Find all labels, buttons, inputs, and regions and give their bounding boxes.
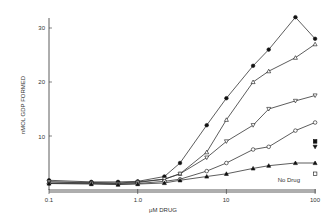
data-point xyxy=(205,123,209,127)
data-point xyxy=(293,56,297,60)
y-tick-20: 20 xyxy=(38,79,45,85)
chart: 0.1 1.0 10 100 10 20 30 µM DRUG nMOL GDP… xyxy=(0,0,336,221)
data-point xyxy=(251,148,255,152)
data-point xyxy=(313,172,317,176)
data-point xyxy=(205,156,209,160)
data-point xyxy=(251,124,255,128)
data-point xyxy=(178,161,182,165)
data-point xyxy=(313,42,317,46)
data-point xyxy=(294,129,298,133)
data-point xyxy=(294,15,298,19)
data-point xyxy=(225,161,229,165)
no-drug-label: No Drug xyxy=(278,177,300,183)
x-axis-label: µM DRUG xyxy=(149,207,177,213)
curve-3 xyxy=(49,123,315,185)
data-point xyxy=(251,64,255,68)
data-point xyxy=(313,140,317,144)
data-point xyxy=(251,80,255,84)
data-point xyxy=(267,69,271,73)
x-tick-2: 10 xyxy=(223,197,230,203)
x-tick-1: 1.0 xyxy=(134,197,143,203)
data-point xyxy=(205,150,209,154)
x-tick-0: 0.1 xyxy=(45,197,54,203)
data-point xyxy=(267,145,271,149)
x-tick-3: 100 xyxy=(310,197,321,203)
curve-2 xyxy=(49,96,315,184)
data-point xyxy=(313,145,317,149)
data-point xyxy=(225,96,229,100)
data-point xyxy=(313,121,317,125)
data-point xyxy=(313,37,317,41)
curve-1 xyxy=(49,44,315,183)
curve-0 xyxy=(49,17,315,182)
axes xyxy=(49,18,316,192)
y-tick-10: 10 xyxy=(38,134,45,140)
y-tick-30: 30 xyxy=(38,25,45,31)
data-point xyxy=(267,48,271,52)
data-point xyxy=(205,169,209,173)
y-axis-label: nMOL GDP FORMED xyxy=(20,75,26,134)
